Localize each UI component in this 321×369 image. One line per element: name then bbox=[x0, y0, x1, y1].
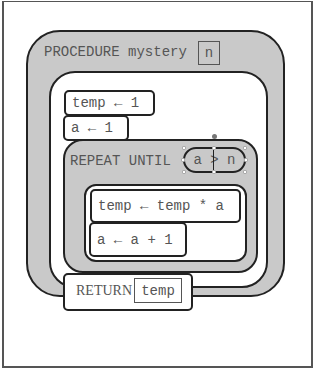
return-value-slot[interactable]: temp bbox=[134, 278, 182, 303]
condition-text: a > n bbox=[193, 152, 235, 168]
procedure-title: PROCEDURE mystery bbox=[44, 44, 187, 60]
selection-handle-t[interactable] bbox=[212, 146, 216, 150]
text-cursor bbox=[213, 150, 214, 170]
selection-handle-r[interactable] bbox=[244, 158, 248, 162]
selection-handle-b[interactable] bbox=[212, 170, 216, 174]
selection-handle-bl[interactable] bbox=[182, 170, 186, 174]
statement-temp-assign[interactable]: temp ← 1 bbox=[64, 90, 155, 116]
statement-a-assign[interactable]: a ← 1 bbox=[63, 115, 129, 141]
selection-handle-tr[interactable] bbox=[243, 146, 247, 150]
selection-handle-tl[interactable] bbox=[182, 146, 186, 150]
procedure-name: mystery bbox=[128, 44, 187, 60]
return-keyword: RETURN bbox=[76, 283, 132, 299]
statement-a-increment[interactable]: a ← a + 1 bbox=[89, 222, 187, 257]
procedure-keyword: PROCEDURE bbox=[44, 44, 120, 60]
repeat-until-label: REPEAT UNTIL bbox=[70, 153, 171, 169]
procedure-parameter-slot[interactable]: n bbox=[198, 41, 220, 65]
statement-temp-multiply[interactable]: temp ← temp * a bbox=[90, 189, 241, 223]
selection-handle-l[interactable] bbox=[181, 158, 185, 162]
selection-handle-br[interactable] bbox=[243, 170, 247, 174]
rotate-handle[interactable] bbox=[212, 134, 217, 139]
